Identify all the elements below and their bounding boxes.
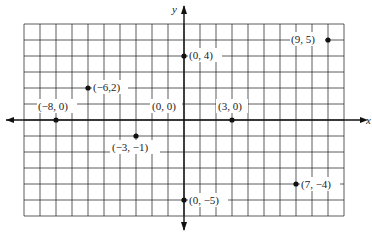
point-neg6-2: (−6,2)	[85, 80, 128, 94]
x-axis-arrow-left-icon	[6, 117, 14, 123]
point-label: (0, −5)	[189, 194, 219, 207]
point-label: (7, −4)	[301, 178, 331, 191]
point-0-neg5: (0, −5)	[181, 193, 228, 207]
point-label: (−8, 0)	[38, 100, 68, 113]
point-label: (3, 0)	[218, 100, 242, 113]
point-label: (−3, −1)	[112, 141, 149, 154]
point-origin: (0, 0)	[150, 99, 182, 113]
point-neg8-0: (−8, 0)	[37, 99, 77, 123]
x-axis: x	[6, 114, 371, 126]
point-label: (9, 5)	[291, 33, 315, 46]
point-label: (0, 4)	[189, 49, 213, 62]
point-label: (−6,2)	[93, 81, 121, 94]
y-axis-arrow-down-icon	[181, 222, 187, 231]
point-7-neg4: (7, −4)	[293, 177, 340, 191]
coordinate-plane: x y (0, 4) (9, 5) (−6,2) (−8, 0) (0, 0) …	[0, 0, 372, 235]
point-label: (0, 0)	[152, 100, 176, 113]
y-axis: y	[171, 3, 187, 231]
y-axis-label: y	[171, 3, 177, 15]
x-axis-label: x	[365, 114, 371, 126]
point-neg3-neg1: (−3, −1)	[110, 133, 160, 154]
point-9-5: (9, 5)	[290, 32, 331, 46]
y-axis-arrow-up-icon	[181, 5, 187, 14]
point-3-0: (3, 0)	[216, 99, 248, 123]
point-0-4: (0, 4)	[181, 48, 222, 62]
